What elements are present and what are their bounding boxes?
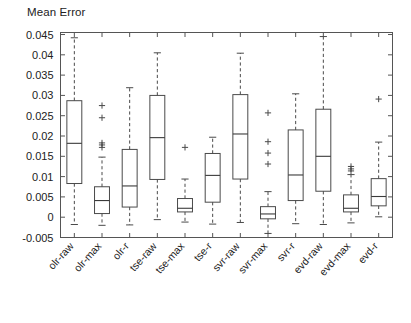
boxplot-olr-max — [95, 102, 110, 225]
y-tick-label: 0.025 — [26, 110, 54, 122]
box-iqr — [288, 130, 303, 201]
boxplot-olr-r — [122, 88, 137, 225]
boxplot-svr-raw — [233, 53, 248, 222]
boxplot-evd-r — [371, 96, 386, 217]
x-tick-label-evd-max: evd-max — [317, 239, 353, 278]
y-tick-label: 0.015 — [26, 150, 54, 162]
box-iqr — [371, 179, 386, 206]
box-iqr — [122, 149, 137, 207]
boxplot-tse-raw — [150, 53, 165, 220]
y-tick-label: 0.02 — [32, 130, 53, 142]
outlier-marker — [265, 161, 271, 167]
x-axis-labels: olr-rawolr-maxolr-rtse-rawtse-maxtse-rsv… — [45, 239, 380, 278]
box-iqr — [233, 95, 248, 179]
y-tick-label: 0.035 — [26, 69, 54, 81]
y-tick-label: -0.005 — [22, 232, 53, 244]
x-tick-label-tse-max: tse-max — [153, 239, 187, 275]
x-tick-label-olr-max: olr-max — [71, 239, 104, 274]
boxplot-olr-raw — [67, 38, 82, 225]
outlier-marker — [182, 144, 188, 150]
boxplot-evd-raw — [316, 37, 331, 225]
plot-frame — [61, 33, 393, 238]
y-tick-label: 0.03 — [32, 89, 53, 101]
boxplot-svr-max — [261, 110, 276, 234]
box-iqr — [178, 199, 193, 212]
y-tick-label: 0.005 — [26, 191, 54, 203]
x-tick-label-tse-r: tse-r — [191, 239, 214, 263]
box-iqr — [261, 207, 276, 219]
boxplot-canvas: -0.00500.0050.010.0150.020.0250.030.0350… — [0, 0, 411, 323]
x-tick-label-evd-r: evd-r — [355, 239, 380, 265]
x-tick-label-olr-r: olr-r — [110, 239, 132, 261]
box-iqr — [205, 153, 220, 202]
outlier-marker — [99, 115, 105, 121]
box-iqr — [67, 101, 82, 184]
y-tick-label: 0.045 — [26, 29, 54, 41]
box-iqr — [316, 109, 331, 191]
x-tick-label-svr-max: svr-max — [236, 239, 270, 275]
outlier-marker — [265, 110, 271, 116]
outlier-marker — [99, 102, 105, 108]
axes — [61, 33, 393, 238]
outlier-marker — [265, 139, 271, 145]
x-tick-label-svr-r: svr-r — [274, 239, 297, 263]
boxplot-tse-r — [205, 137, 220, 224]
y-tick-label: 0.01 — [32, 171, 53, 183]
outlier-marker — [376, 96, 382, 102]
outlier-marker — [265, 150, 271, 156]
x-axis-ticks — [74, 33, 378, 238]
chart-figure: Mean Error -0.00500.0050.010.0150.020.02… — [0, 0, 411, 323]
y-tick-label: 0.04 — [32, 49, 53, 61]
y-axis-ticks: -0.00500.0050.010.0150.020.0250.030.0350… — [22, 29, 392, 244]
y-tick-label: 0 — [47, 211, 53, 223]
box-iqr — [344, 195, 359, 212]
boxplot-tse-max — [178, 144, 193, 222]
boxplot-evd-max — [344, 163, 359, 223]
boxplot-svr-r — [288, 94, 303, 224]
box-series — [67, 37, 386, 234]
